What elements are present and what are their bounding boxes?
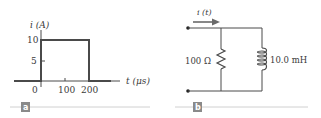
panel-a-chart: i (A) 10 5 t (μs) 0 100 200 a <box>10 20 150 112</box>
resistor-label: 100 Ω <box>185 56 211 66</box>
x-tick-label-200: 200 <box>81 85 98 95</box>
current-label: i (t) <box>197 8 212 17</box>
y-tick-label-5: 5 <box>31 56 37 66</box>
current-arrow-icon <box>212 19 220 26</box>
inductor-icon <box>258 48 267 70</box>
y-tick-label-10: 10 <box>27 35 39 45</box>
inductor-label: 10.0 mH <box>270 55 307 65</box>
x-axis-label: t (μs) <box>126 76 150 86</box>
bottom-wire <box>188 70 262 91</box>
x-tick-label-0: 0 <box>32 85 38 95</box>
current-pulse <box>14 40 111 81</box>
resistor-icon <box>217 49 225 69</box>
x-tick-label-100: 100 <box>58 85 75 95</box>
figure: i (A) 10 5 t (μs) 0 100 200 a i (t) 100 … <box>0 0 321 118</box>
y-axis-label: i (A) <box>30 20 50 30</box>
panel-a-badge-label: a <box>23 103 28 112</box>
panel-b-circuit: i (t) 100 Ω 10.0 mH b <box>175 8 308 112</box>
panel-b-badge-label: b <box>195 103 201 112</box>
top-wire <box>188 28 262 48</box>
